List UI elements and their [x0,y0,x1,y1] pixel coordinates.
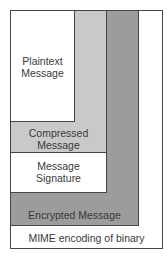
plaintext-label-line1: Plaintext [10,55,75,67]
compressed-label-line1: Compressed [10,127,107,139]
mime-label: MIME encoding of binary [10,232,163,244]
signature-label: Message Signature [10,160,107,184]
signature-label-line1: Message [10,160,107,172]
compressed-label: Compressed Message [10,127,107,151]
plaintext-label-line2: Message [10,67,75,79]
encrypted-label: Encrypted Message [10,209,139,221]
compressed-label-line2: Message [10,139,107,151]
plaintext-label: Plaintext Message [10,55,75,79]
signature-label-line2: Signature [10,172,107,184]
